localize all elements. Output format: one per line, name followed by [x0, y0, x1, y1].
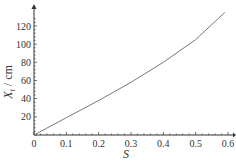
x-axis-arrow-icon [233, 133, 236, 138]
series-line [34, 12, 225, 135]
y-label-unit: / cm [1, 65, 15, 90]
x-tick-label: 0.1 [60, 138, 73, 149]
x-axis-label: S [123, 147, 129, 161]
y-tick-label: 120 [16, 21, 31, 32]
x-tick-label: 0.6 [222, 138, 235, 149]
x-tick-label: 0 [32, 138, 37, 149]
y-tick-label: 80 [21, 57, 31, 68]
x-tick-label: 0.5 [189, 138, 202, 149]
y-axis-label: Xt / cm [1, 65, 17, 100]
y-tick-label: 40 [21, 93, 31, 104]
y-tick-label: 20 [21, 111, 31, 122]
plot-area: 00.10.20.30.40.50.620406080100120 [16, 4, 236, 149]
x-tick-label: 0.2 [92, 138, 105, 149]
y-tick-label: 60 [21, 75, 31, 86]
chart: 00.10.20.30.40.50.620406080100120 S Xt /… [0, 0, 236, 162]
y-axis-arrow-icon [32, 4, 37, 9]
y-tick-label: 100 [16, 39, 31, 50]
x-tick-label: 0.4 [157, 138, 170, 149]
